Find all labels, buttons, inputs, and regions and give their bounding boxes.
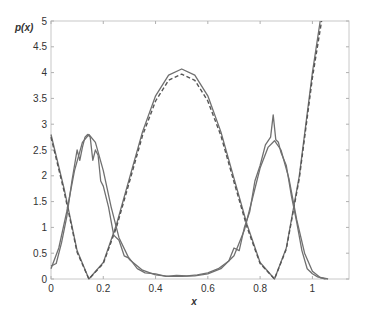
y-tick-label: 0 — [41, 274, 47, 285]
y-tick-label: 4 — [41, 67, 47, 78]
x-tick-label: 0 — [48, 283, 54, 294]
x-tick-label: 0.4 — [149, 283, 163, 294]
x-tick-label: 0.8 — [253, 283, 267, 294]
x-tick-label: 0.6 — [201, 283, 215, 294]
y-tick-label: 3.5 — [33, 93, 47, 104]
y-tick-label: 1.5 — [33, 196, 47, 207]
y-tick-label: 2.5 — [33, 145, 47, 156]
x-tick-label: 0.2 — [96, 283, 110, 294]
y-tick-label: 4.5 — [33, 41, 47, 52]
chart-canvas: 00.511.522.533.544.55 00.20.40.60.81 p(x… — [0, 0, 366, 321]
y-tick-label: 2 — [41, 170, 47, 181]
y-tick-label: 1 — [41, 222, 47, 233]
y-axis-label: p(x) — [14, 22, 34, 33]
y-tick-label: 5 — [41, 16, 47, 27]
x-tick-label: 1 — [310, 283, 316, 294]
x-axis-label: x — [190, 296, 197, 307]
y-tick-label: 0.5 — [33, 248, 47, 259]
y-tick-label: 3 — [41, 119, 47, 130]
